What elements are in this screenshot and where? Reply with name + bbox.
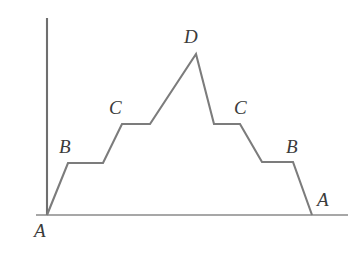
- label-right-c: C: [234, 98, 247, 117]
- label-left-b: B: [59, 137, 71, 156]
- step-profile-path: [47, 54, 312, 215]
- figure-root: A B C D C B A: [0, 0, 364, 260]
- label-left-c: C: [109, 98, 122, 117]
- label-right-a: A: [317, 190, 329, 209]
- label-right-b: B: [286, 137, 298, 156]
- label-origin-a: A: [34, 221, 46, 240]
- label-peak-d: D: [184, 27, 198, 46]
- diagram-canvas: [0, 0, 364, 260]
